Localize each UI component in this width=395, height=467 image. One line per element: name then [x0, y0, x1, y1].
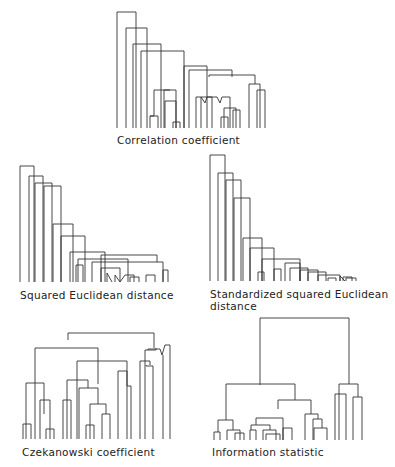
dendrogram-link	[251, 425, 270, 430]
dendrogram-figure	[0, 0, 395, 467]
dendrogram-link	[107, 273, 112, 282]
caption-czekanowski-coefficient: Czekanowski coefficient	[22, 446, 155, 458]
dendrogram-link	[266, 434, 280, 440]
dendrogram-link	[210, 155, 225, 281]
dendrogram-link	[127, 386, 131, 439]
dendrogram-link	[250, 430, 256, 440]
dendrogram-link	[346, 278, 356, 281]
dendrogram-link	[260, 318, 349, 385]
dendrogram-link	[283, 428, 292, 440]
dendrogram-link	[328, 278, 336, 281]
dendrogram-link	[278, 400, 311, 414]
dendrogram-link	[353, 397, 362, 440]
dendrogram-link	[227, 430, 240, 440]
dendrogram-link	[102, 414, 110, 439]
caption-correlation-coefficient: Correlation coefficient	[117, 134, 240, 146]
dendrogram-link	[305, 414, 318, 440]
dendrogram-link	[20, 166, 34, 282]
dendrogram-link	[201, 97, 230, 128]
dendrogram-link	[148, 345, 170, 439]
dendrogram-czekanowski-coefficient	[23, 333, 170, 439]
dendrogram-link	[263, 430, 276, 440]
dendrogram-link	[79, 388, 98, 439]
dendrogram-link	[163, 270, 168, 282]
dendrogram-squared-euclidean-distance	[20, 166, 168, 282]
dendrogram-link	[130, 277, 139, 282]
dendrogram-link	[165, 101, 176, 128]
dendrogram-link	[274, 269, 281, 281]
dendrogram-link	[173, 122, 180, 128]
dendrogram-information-statistic	[214, 318, 362, 440]
dendrogram-link	[146, 365, 153, 439]
dendrogram-link	[118, 371, 127, 439]
dendrogram-link	[76, 265, 83, 282]
dendrogram-link	[150, 116, 158, 128]
dendrogram-link	[23, 424, 31, 439]
dendrogram-link	[126, 28, 147, 128]
dendrogram-standardized-squared-euclidean-distance	[210, 155, 356, 281]
dendrogram-link	[249, 84, 260, 128]
dendrogram-link	[44, 186, 61, 282]
dendrogram-link	[90, 404, 106, 439]
dendrogram-link	[68, 333, 154, 348]
dendrogram-correlation-coefficient	[117, 12, 265, 128]
dendrogram-link	[308, 272, 326, 281]
dendrogram-link	[214, 432, 220, 440]
dendrogram-link	[256, 418, 283, 440]
caption-information-statistic: Information statistic	[212, 446, 324, 458]
dendrogram-link	[146, 275, 155, 282]
dendrogram-link	[314, 428, 327, 440]
dendrogram-link	[285, 263, 300, 281]
dendrogram-link	[218, 173, 233, 281]
caption-line-2: distance	[210, 300, 389, 312]
dendrogram-link	[233, 110, 240, 128]
dendrogram-link	[257, 90, 265, 128]
dendrogram-link	[234, 198, 250, 281]
caption-line-1: Standardized squared Euclidean	[210, 288, 389, 300]
dendrogram-link	[70, 252, 105, 282]
dendrogram-link	[335, 394, 346, 440]
dendrogram-link	[29, 176, 43, 282]
dendrogram-link	[40, 400, 50, 439]
caption-standardized-squared-euclidean-distance: Standardized squared Euclidean distance	[210, 288, 389, 312]
dendrogram-link	[221, 117, 228, 128]
dendrogram-link	[339, 384, 358, 440]
dendrogram-link	[243, 238, 262, 281]
dendrogram-link	[226, 384, 295, 420]
dendrogram-link	[35, 183, 52, 282]
dendrogram-link	[67, 380, 88, 439]
dendrogram-link	[145, 348, 156, 439]
dendrogram-link	[150, 90, 170, 116]
dendrogram-link	[189, 70, 232, 128]
dendrogram-link	[92, 262, 163, 282]
dendrogram-link	[258, 272, 264, 281]
dendrogram-link	[235, 433, 244, 440]
caption-squared-euclidean-distance: Squared Euclidean distance	[20, 289, 174, 301]
dendrogram-link	[115, 275, 134, 282]
dendrogram-link	[226, 180, 241, 281]
